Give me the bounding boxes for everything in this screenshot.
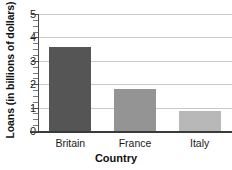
x-axis-tick-label: Britain [55,137,85,149]
y-axis-minor-tick [33,49,38,50]
y-axis-title-text: Loans (in billions of dollars) [3,1,15,138]
y-axis-minor-tick [33,43,38,44]
y-axis-minor-tick [33,90,38,91]
y-axis-minor-tick [33,96,38,97]
y-axis-major-tick [31,37,38,38]
plot-area [38,14,232,131]
x-axis-title: Country [0,152,232,164]
y-axis-minor-tick [33,78,38,79]
y-axis-minor-tick [33,26,38,27]
y-axis-minor-tick [33,55,38,56]
y-axis-major-tick [31,84,38,85]
gridline [38,37,232,38]
bar-chart: Loans (in billions of dollars) 012345 Co… [0,0,232,170]
y-axis-major-tick [31,108,38,109]
y-axis-minor-tick [33,113,38,114]
bar [114,89,156,131]
y-axis-major-tick [31,61,38,62]
y-axis-major-tick [31,131,38,132]
x-axis-tick-label: France [119,137,152,149]
bar [49,47,91,131]
y-axis-minor-tick [33,73,38,74]
y-axis-line [38,14,39,132]
y-axis-major-tick [31,14,38,15]
y-axis-minor-tick [33,32,38,33]
y-axis-minor-tick [33,119,38,120]
bar [179,111,221,131]
x-axis-line [30,131,232,133]
gridline [38,14,232,15]
y-axis-minor-tick [33,67,38,68]
y-axis-minor-tick [33,125,38,126]
y-axis-title: Loans (in billions of dollars) [0,0,18,140]
y-axis-minor-tick [33,20,38,21]
x-axis-tick-label: Italy [190,137,209,149]
y-axis-minor-tick [33,102,38,103]
